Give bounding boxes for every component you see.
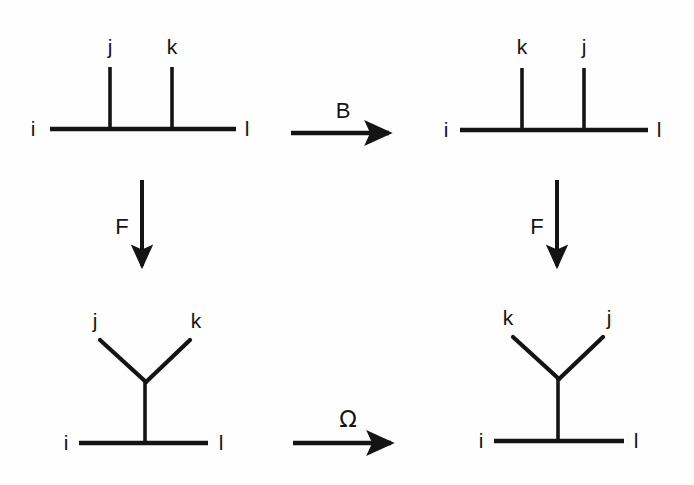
tree-comb-jk-label-l: l [245, 118, 250, 139]
tree-fork-jk [79, 340, 208, 443]
tree-comb-kj-label-k: k [517, 36, 528, 57]
tree-fork-jk-label-k: k [191, 310, 202, 331]
tree-fork-jk-branch-j [100, 340, 146, 382]
tree-comb-jk-label-i: i [31, 118, 36, 139]
arrow-f-right-label: F [530, 216, 543, 237]
tree-fork-kj-branch-j [559, 337, 603, 379]
tree-fork-jk-label-j: j [93, 310, 98, 331]
tree-fork-jk-branch-k [146, 340, 190, 382]
tree-comb-jk [50, 67, 236, 129]
arrow-b-label: B [336, 100, 351, 121]
tree-fork-kj [494, 337, 624, 441]
tree-comb-jk-label-j: j [108, 36, 113, 57]
tree-fork-kj-label-k: k [503, 307, 514, 328]
tree-comb-kj-label-l: l [657, 119, 662, 140]
tree-fork-kj-branch-k [513, 337, 559, 379]
tree-comb-kj-label-j: j [582, 36, 587, 57]
tree-comb-jk-label-k: k [167, 36, 178, 57]
arrow-f-left-label: F [115, 216, 128, 237]
tree-fork-jk-label-i: i [64, 432, 69, 453]
tree-fork-kj-label-l: l [634, 430, 639, 451]
tree-fork-jk-label-l: l [219, 432, 224, 453]
tree-comb-kj-label-i: i [444, 119, 449, 140]
tree-fork-kj-label-j: j [607, 307, 612, 328]
tree-fork-kj-label-i: i [479, 430, 484, 451]
tree-comb-kj [460, 68, 648, 130]
arrow-omega-label: Ω [339, 409, 357, 430]
